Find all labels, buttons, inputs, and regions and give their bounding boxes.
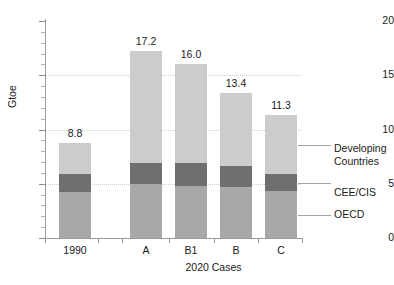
bar-segment-developing-countries [265,115,297,174]
legend-label: DevelopingCountries [334,142,387,167]
bar-segment-cee-cis [175,163,207,186]
x-axis-title: 2020 Cases [154,262,274,273]
leader-line [298,183,331,184]
bar-segment-developing-countries [59,143,91,174]
bar-segment-oecd [59,192,91,238]
y-tick-minor [41,151,45,152]
bar-column [265,21,297,238]
x-tick-label: C [251,245,311,256]
bar-stack [265,115,297,238]
bar-total-label: 8.8 [68,128,83,139]
y-tick-minor [41,195,45,196]
bar-segment-oecd [175,186,207,238]
y-tick-minor [41,54,45,55]
y-tick-minor [41,140,45,141]
y-tick-minor [41,205,45,206]
bar-segment-cee-cis [130,163,162,184]
bar-total-label: 17.2 [136,36,156,47]
x-tick [214,238,215,243]
y-tick-minor [41,162,45,163]
leader-line [298,215,331,216]
y-tick-minor [41,64,45,65]
bar-stack [220,93,252,238]
bar-stack [130,51,162,238]
legend-label-line: CEE/CIS [334,186,376,199]
bar-segment-cee-cis [220,166,252,187]
x-tick-label: 1990 [45,245,105,256]
x-tick [169,238,170,243]
y-tick-label: 20 [358,15,394,26]
x-tick [122,238,123,243]
y-tick-label: 0 [358,232,394,243]
y-tick-minor [41,119,45,120]
y-tick-minor [41,227,45,228]
bar-total-label: 11.3 [271,100,291,111]
y-tick-minor [41,86,45,87]
bar-segment-developing-countries [220,93,252,167]
legend-label: CEE/CIS [334,186,376,199]
x-tick [98,238,99,243]
y-tick-minor [41,108,45,109]
bar-column [220,21,252,238]
y-tick-minor [41,32,45,33]
bar-segment-cee-cis [265,174,297,191]
x-tick [258,238,259,243]
legend-label: OECD [334,208,364,221]
x-axis-line [45,238,302,239]
x-tick [302,238,303,243]
y-tick-minor [41,97,45,98]
bar-stack [59,143,91,238]
y-tick-major [39,130,45,131]
y-tick-label: 15 [358,69,394,80]
bar-column [130,21,162,238]
leader-line [298,145,331,146]
bar-segment-oecd [265,191,297,238]
bar-segment-developing-countries [130,51,162,163]
bar-total-label: 13.4 [226,78,246,89]
y-tick-label: 10 [358,124,394,135]
bar-total-label: 16.0 [181,49,201,60]
y-tick-minor [41,43,45,44]
y-tick-major [39,21,45,22]
y-axis-title: Gtoe [6,85,18,108]
bar-segment-oecd [130,184,162,238]
legend-label-line: Countries [334,155,387,168]
bar-segment-cee-cis [59,174,91,192]
y-tick-minor [41,173,45,174]
legend-label-line: OECD [334,208,364,221]
y-tick-major [39,75,45,76]
bar-stack [175,64,207,238]
legend-label-line: Developing [334,142,387,155]
bar-segment-oecd [220,187,252,238]
stacked-bar-chart: Gtoe 05101520 8.817.216.013.411.3 1990AB… [0,0,394,285]
bar-segment-developing-countries [175,64,207,163]
y-tick-minor [41,216,45,217]
x-tick [45,238,46,243]
y-tick-major [39,184,45,185]
